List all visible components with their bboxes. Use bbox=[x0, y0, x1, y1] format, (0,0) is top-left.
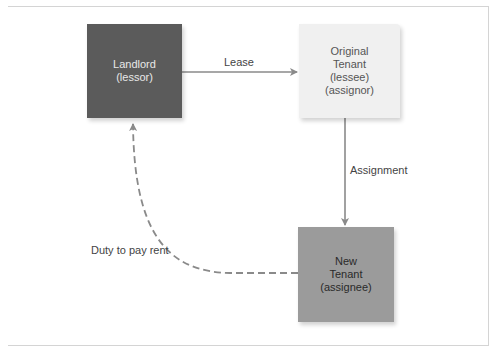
assignment-label: Assignment bbox=[350, 164, 407, 176]
original-tenant-line-4: (assignor) bbox=[325, 84, 374, 97]
diagram-connectors bbox=[0, 0, 495, 349]
landlord-title: Landlord bbox=[113, 58, 156, 71]
new-tenant-line-3: (assignee) bbox=[320, 281, 371, 294]
duty-to-pay-rent-label: Duty to pay rent bbox=[91, 244, 169, 256]
original-tenant-node: Original Tenant (lessee) (assignor) bbox=[299, 24, 400, 118]
original-tenant-line-2: Tenant bbox=[325, 58, 374, 71]
original-tenant-line-1: Original bbox=[325, 45, 374, 58]
landlord-node: Landlord (lessor) bbox=[87, 24, 182, 118]
lease-label: Lease bbox=[224, 56, 254, 68]
new-tenant-line-1: New bbox=[320, 255, 371, 268]
new-tenant-line-2: Tenant bbox=[320, 268, 371, 281]
new-tenant-node: New Tenant (assignee) bbox=[298, 227, 394, 322]
landlord-subtitle: (lessor) bbox=[113, 71, 156, 84]
original-tenant-line-3: (lessee) bbox=[325, 71, 374, 84]
